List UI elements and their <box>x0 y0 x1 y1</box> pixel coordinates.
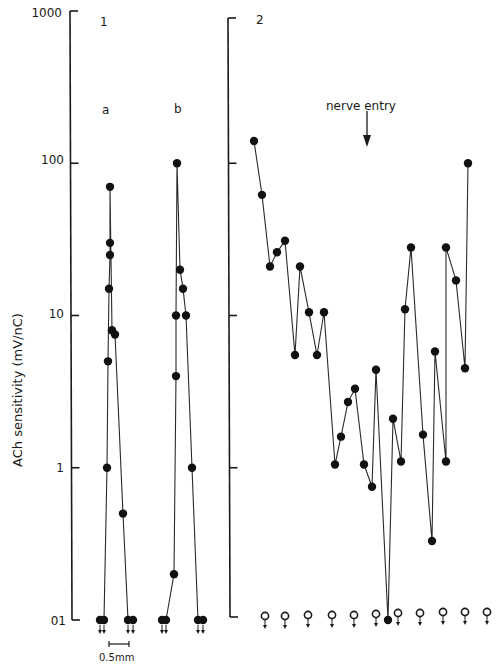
panel-2-y-axis <box>228 18 230 617</box>
series-2-point <box>273 248 281 256</box>
series-1a-point <box>111 330 119 338</box>
below-detection-open-marker-icon <box>350 611 357 628</box>
series-2-point <box>431 347 439 355</box>
below-detection-open-marker-icon <box>483 608 490 625</box>
below-detection-open-marker-icon <box>394 609 401 626</box>
series-2-point <box>389 414 397 422</box>
series-2-point <box>372 366 380 374</box>
tick-label-0-1: 01 <box>51 614 66 628</box>
below-detection-arrow-icon <box>196 625 200 634</box>
series-2-point <box>368 483 376 491</box>
y-axis-label: ACh sensitivity (mV/nC) <box>10 313 25 467</box>
scale-bar <box>109 641 129 647</box>
nerve-entry-label: nerve entry <box>326 99 396 113</box>
below-detection-arrow-icon <box>201 625 205 634</box>
series-2-point <box>407 243 415 251</box>
series-2-point <box>337 432 345 440</box>
series-2-point <box>344 398 352 406</box>
below-detection-open-marker-icon <box>304 611 311 628</box>
series-2-point <box>401 305 409 313</box>
series-2-point <box>266 262 274 270</box>
below-detection-arrow-icon <box>131 625 135 634</box>
below-detection-open-marker-icon <box>461 608 468 625</box>
series-2-point <box>397 457 405 465</box>
series-2-point <box>250 137 258 145</box>
tick-label-10: 10 <box>49 307 64 321</box>
labels-layer: ACh sensitivity (mV/nC) 1 2 a b nerve en… <box>10 6 396 663</box>
series-layer <box>96 137 491 634</box>
series-1a-line <box>100 187 133 620</box>
below-detection-open-marker-icon <box>261 612 268 629</box>
below-detection-arrow-icon <box>126 625 130 634</box>
series-2-point <box>281 236 289 244</box>
series-1b-point <box>188 464 196 472</box>
series-1b-line <box>162 163 203 620</box>
tick-label-1: 1 <box>56 461 64 475</box>
panel-2-label: 2 <box>256 13 264 27</box>
series-1a-point <box>104 357 112 365</box>
series-2-point <box>428 537 436 545</box>
below-detection-arrow-icon <box>160 625 164 634</box>
series-2-point <box>442 457 450 465</box>
series-1a-point <box>106 239 114 247</box>
tick-label-1000: 1000 <box>31 6 62 20</box>
series-2-point <box>360 460 368 468</box>
series-2-point <box>313 351 321 359</box>
series-1b-point <box>199 616 207 624</box>
axes <box>70 11 238 620</box>
series-1a-point <box>100 616 108 624</box>
below-detection-open-marker-icon <box>328 611 335 628</box>
series-1b-point <box>170 570 178 578</box>
nerve-entry-arrow-icon <box>363 111 371 147</box>
series-1b-point <box>162 616 170 624</box>
series-2-point <box>461 364 469 372</box>
below-detection-open-marker-icon <box>281 612 288 629</box>
figure: ACh sensitivity (mV/nC) 1 2 a b nerve en… <box>0 0 502 668</box>
series-1b-point <box>179 284 187 292</box>
series-1a-point <box>106 183 114 191</box>
series-2-point <box>320 308 328 316</box>
series-1b-point <box>182 311 190 319</box>
below-detection-open-marker-icon <box>416 609 423 626</box>
subpanel-a-label: a <box>102 103 109 117</box>
series-1b-point <box>176 265 184 273</box>
chart-canvas: ACh sensitivity (mV/nC) 1 2 a b nerve en… <box>0 0 502 668</box>
series-1a-point <box>119 509 127 517</box>
series-2-point <box>351 385 359 393</box>
below-detection-arrow-icon <box>164 625 168 634</box>
subpanel-b-label: b <box>174 102 182 116</box>
scale-bar-label: 0.5mm <box>99 652 134 663</box>
series-2-point <box>442 243 450 251</box>
series-1a-point <box>129 616 137 624</box>
series-2-line <box>254 141 468 620</box>
series-2-point <box>296 262 304 270</box>
series-1b-point <box>172 311 180 319</box>
series-2-point <box>305 308 313 316</box>
panel-1-label: 1 <box>100 15 108 29</box>
series-2-point <box>464 159 472 167</box>
series-2-point <box>291 351 299 359</box>
series-1b-point <box>173 159 181 167</box>
series-2-point <box>384 616 392 624</box>
below-detection-open-marker-icon <box>372 610 379 627</box>
below-detection-open-marker-icon <box>439 608 446 625</box>
below-detection-arrow-icon <box>102 625 106 634</box>
series-2-point <box>258 191 266 199</box>
series-1a-point <box>105 284 113 292</box>
series-2-point <box>452 276 460 284</box>
tick-label-100: 100 <box>41 153 64 167</box>
series-1a-point <box>103 464 111 472</box>
below-detection-arrow-icon <box>98 625 102 634</box>
series-2-point <box>331 460 339 468</box>
series-1a-point <box>106 251 114 259</box>
series-2-point <box>419 430 427 438</box>
series-1b-point <box>172 372 180 380</box>
